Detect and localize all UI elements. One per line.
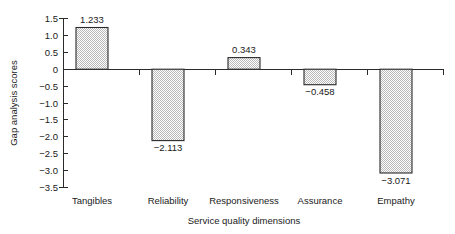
category-label-assurance: Assurance	[298, 195, 343, 206]
category-label-reliability: Reliability	[148, 195, 189, 206]
y-tick-label: −3.0	[39, 165, 58, 176]
category-label-responsiveness: Responsiveness	[209, 195, 279, 206]
y-tick-label: −2.5	[39, 148, 58, 159]
y-tick-label: 1.0	[45, 30, 58, 41]
bar-responsiveness	[228, 58, 260, 70]
value-label-assurance: −0.458	[305, 86, 334, 97]
y-tick-label: −3.5	[39, 182, 58, 193]
bar-empathy	[380, 69, 412, 173]
value-label-responsiveness: 0.343	[232, 44, 256, 55]
value-label-reliability: −2.113	[154, 142, 183, 153]
y-tick-label: 1.5	[45, 13, 58, 24]
chart-canvas: 1.5 1.0 0.5 0 −0.5 −1.0 −1.5 −2.0 −2.5 −…	[0, 0, 455, 234]
value-label-empathy: −3.071	[381, 175, 410, 186]
bar-tangibles	[76, 28, 108, 70]
category-label-tangibles: Tangibles	[72, 195, 112, 206]
bar-assurance	[304, 69, 336, 85]
y-tick-label: 0.5	[45, 47, 58, 58]
value-label-tangibles: 1.233	[80, 14, 104, 25]
y-tick-label: −1.5	[39, 114, 58, 125]
y-tick-label: −1.0	[39, 98, 58, 109]
y-tick-label: −0.5	[39, 81, 58, 92]
x-axis-title: Service quality dimensions	[188, 215, 301, 226]
y-tick-label: −2.0	[39, 131, 58, 142]
gap-analysis-bar-chart: 1.5 1.0 0.5 0 −0.5 −1.0 −1.5 −2.0 −2.5 −…	[0, 0, 455, 234]
bar-reliability	[152, 69, 184, 140]
category-label-empathy: Empathy	[377, 195, 415, 206]
y-axis-title: Gap analysis scores	[8, 60, 19, 146]
y-tick-label: 0	[53, 64, 58, 75]
